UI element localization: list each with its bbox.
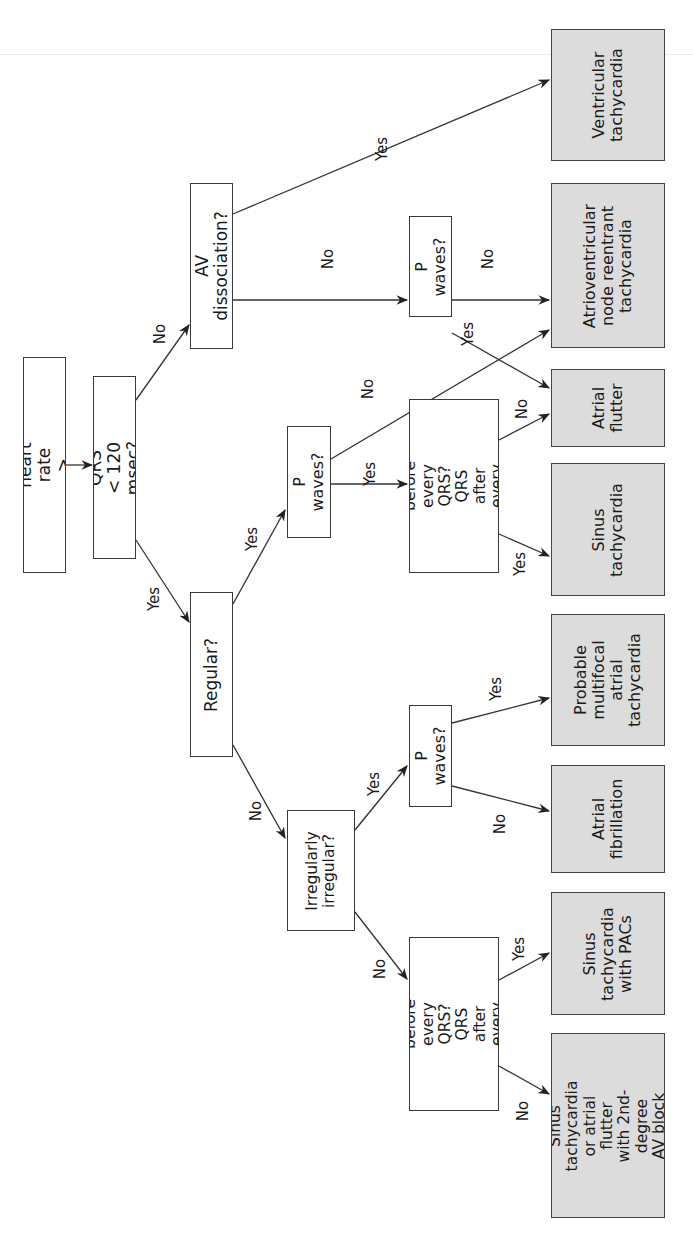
irregularly-irregular-box: Irregularly irregular? <box>287 810 355 931</box>
p-before-every-qrs-lower-box: P before every QRS? QRS after every P? <box>409 937 499 1111</box>
tachycardia-flowchart: For heart rate > 100 QRS < 120 msec? AV … <box>0 0 693 1245</box>
edge-label-pbl-no: No <box>514 1101 532 1121</box>
edge-label-irr-no: No <box>371 959 389 979</box>
outcome-avnrt: Atrioventricular node reentrant tachycar… <box>551 183 665 348</box>
regular-decision-box: Regular? <box>190 592 233 757</box>
edge-label-qrs-no: No <box>151 324 169 344</box>
edge-label-pwu-yes: Yes <box>459 322 477 346</box>
outcome-atrial-fibrillation: Atrial fibrillation <box>551 765 665 873</box>
edge-label-pwl-no: No <box>491 814 509 834</box>
edge-label-av-no: No <box>319 249 337 269</box>
edge-label-pwm-no: No <box>359 379 377 399</box>
edge-label-pbu-no: No <box>513 399 531 419</box>
outcome-sinus-or-flutter-with-av-block: Sinus tachycardia or atrial flutter with… <box>551 1033 665 1218</box>
p-waves-mid-box: P waves? <box>287 426 331 538</box>
edge-label-pbl-yes: Yes <box>510 937 528 961</box>
edge-label-pwm-yes: Yes <box>361 462 379 486</box>
edge-label-qrs-yes: Yes <box>145 587 163 611</box>
edge-label-pwl-yes: Yes <box>487 677 505 701</box>
p-waves-lower-box: P waves? <box>409 705 452 807</box>
edge-label-reg-yes: Yes <box>243 527 261 551</box>
start-box: For heart rate > 100 <box>23 357 66 573</box>
edge-label-pbu-yes: Yes <box>511 552 529 576</box>
edge-label-irr-yes: Yes <box>365 772 383 796</box>
outcome-ventricular-tachycardia: Ventricular tachycardia <box>551 29 665 161</box>
edge-label-reg-no: No <box>247 801 265 821</box>
p-waves-upper-box: P waves? <box>409 216 452 317</box>
outcome-sinus-tachycardia-with-pacs: Sinus tachycardia with PACs <box>551 892 665 1015</box>
edge-label-pwu-no: No <box>479 249 497 269</box>
outcome-multifocal-atrial-tachycardia: Probable multifocal atrial tachycardia <box>551 614 665 746</box>
p-before-every-qrs-upper-box: P before every QRS? QRS after every P? <box>409 399 499 573</box>
outcome-atrial-flutter: Atrial flutter <box>551 369 665 447</box>
av-dissociation-box: AV dissociation? <box>190 183 233 349</box>
edge-label-av-yes: Yes <box>373 137 391 161</box>
outcome-sinus-tachycardia: Sinus tachycardia <box>551 463 665 596</box>
qrs-decision-box: QRS < 120 msec? <box>93 376 136 559</box>
